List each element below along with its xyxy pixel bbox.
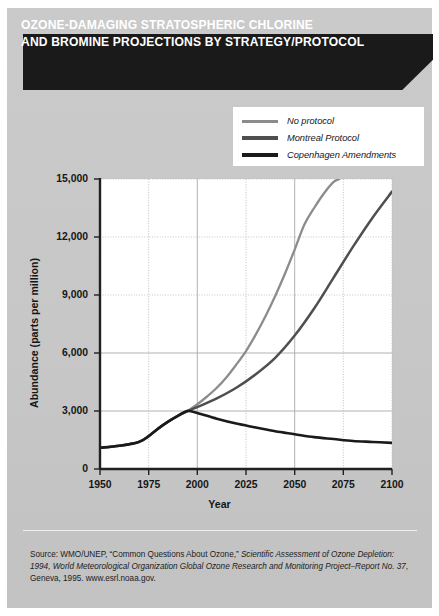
y-axis-title: Abundance (parts per million): [28, 258, 40, 408]
chart-card: OZONE-DAMAGING STRATOSPHERIC CHLORINE AN…: [7, 8, 432, 608]
legend-swatch-no-protocol-icon: [242, 120, 278, 123]
y-tick-label-0: 0: [35, 463, 88, 474]
x-tick-label-2050: 2050: [271, 479, 319, 490]
x-tick-label-2000: 2000: [173, 479, 221, 490]
source-note: Source: WMO/UNEP, “Common Questions Abou…: [30, 549, 412, 585]
y-tick-label-15000: 15,000: [35, 173, 88, 184]
legend-label-montreal-protocol: Montreal Protocol: [287, 133, 359, 143]
x-tick-label-2075: 2075: [319, 479, 367, 490]
y-tick-label-3000: 3,000: [35, 405, 88, 416]
x-tick-label-2025: 2025: [222, 479, 270, 490]
x-tick-label-2100: 2100: [368, 479, 416, 490]
legend-swatch-montreal-protocol-icon: [242, 136, 278, 139]
source-note-prefix: Source: WMO/UNEP, “Common Questions Abou…: [30, 550, 241, 559]
footer-divider: [23, 530, 417, 531]
y-tick-label-12000: 12,000: [35, 231, 88, 242]
chart-page: OZONE-DAMAGING STRATOSPHERIC CHLORINE AN…: [0, 0, 439, 616]
legend-swatch-copenhagen-amendments-icon: [242, 153, 278, 157]
x-axis-title: Year: [7, 498, 432, 510]
chart-legend: No protocol Montreal Protocol Copenhagen…: [233, 107, 424, 166]
y-tick-label-6000: 6,000: [35, 347, 88, 358]
legend-item-montreal-protocol: Montreal Protocol: [242, 131, 359, 145]
legend-item-copenhagen-amendments: Copenhagen Amendments: [242, 148, 396, 162]
chart-svg: [7, 8, 432, 608]
x-tick-label-1950: 1950: [76, 479, 124, 490]
legend-label-no-protocol: No protocol: [287, 116, 334, 126]
legend-label-copenhagen-amendments: Copenhagen Amendments: [287, 150, 396, 160]
x-tick-label-1975: 1975: [125, 479, 173, 490]
y-tick-label-9000: 9,000: [35, 289, 88, 300]
chart-area: 15,000 12,000 9,000 6,000 3,000 0 1950 1…: [7, 8, 432, 608]
legend-item-no-protocol: No protocol: [242, 114, 334, 128]
